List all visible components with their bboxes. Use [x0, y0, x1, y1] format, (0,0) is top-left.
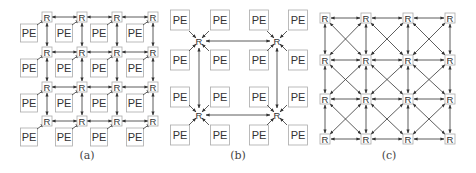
router-node: R — [445, 94, 455, 105]
pe-node: PE — [56, 24, 73, 42]
router-label: R — [322, 13, 329, 24]
pe-node: PE — [91, 94, 108, 112]
link-arrow — [202, 44, 209, 51]
caption-a: (a) — [79, 149, 94, 162]
router-label: R — [196, 36, 203, 47]
router-label: R — [322, 55, 329, 66]
router-node: R — [77, 12, 87, 23]
router-label: R — [44, 12, 51, 23]
pe-node: PE — [56, 94, 73, 112]
pe-node: PE — [91, 59, 108, 77]
router-node: R — [361, 134, 371, 145]
pe-node: PE — [21, 128, 38, 146]
router-node: R — [148, 82, 158, 93]
pe-node: PE — [56, 128, 73, 146]
link-arrow — [280, 31, 287, 38]
router-node: R — [112, 82, 122, 93]
pe-node: PE — [127, 59, 144, 77]
router-node: R — [148, 116, 158, 127]
pe-node: PE — [250, 87, 269, 107]
pe-label: PE — [173, 129, 188, 141]
router-label: R — [114, 82, 121, 93]
router-label: R — [405, 94, 412, 105]
router-label: R — [447, 13, 454, 24]
pe-label: PE — [173, 14, 188, 26]
router-node: R — [274, 110, 281, 121]
router-node: R — [42, 47, 52, 58]
router-node: R — [112, 116, 122, 127]
pe-label: PE — [291, 91, 306, 103]
router-label: R — [363, 55, 370, 66]
router-label: R — [447, 94, 454, 105]
router-label: R — [79, 82, 86, 93]
pe-label: PE — [291, 129, 306, 141]
router-node: R — [403, 134, 413, 145]
router-label: R — [363, 134, 370, 145]
router-node: R — [196, 110, 203, 121]
router-node: R — [445, 13, 455, 24]
pe-node: PE — [211, 10, 230, 30]
pe-node: PE — [21, 94, 38, 112]
router-node: R — [445, 134, 455, 145]
router-node: R — [403, 13, 413, 24]
pe-label: PE — [92, 62, 107, 74]
pe-label: PE — [128, 27, 143, 39]
link-arrow — [202, 118, 209, 125]
pe-label: PE — [252, 54, 267, 66]
pe-node: PE — [127, 128, 144, 146]
router-label: R — [447, 134, 454, 145]
router-node: R — [77, 116, 87, 127]
router-node: R — [320, 55, 330, 66]
pe-label: PE — [291, 14, 306, 26]
router-node: R — [403, 94, 413, 105]
router-node: R — [445, 55, 455, 66]
router-label: R — [196, 110, 203, 121]
pe-node: PE — [289, 125, 308, 145]
router-node: R — [274, 36, 281, 47]
router-node: R — [148, 12, 158, 23]
pe-node: PE — [250, 50, 269, 70]
router-label: R — [274, 110, 281, 121]
pe-node: PE — [211, 87, 230, 107]
router-label: R — [405, 134, 412, 145]
pe-node: PE — [21, 59, 38, 77]
pe-label: PE — [252, 14, 267, 26]
pe-node: PE — [289, 10, 308, 30]
router-label: R — [79, 47, 86, 58]
router-label: R — [79, 12, 86, 23]
router-node: R — [112, 12, 122, 23]
router-label: R — [150, 82, 157, 93]
pe-label: PE — [213, 54, 228, 66]
pe-node: PE — [250, 125, 269, 145]
pe-node: PE — [91, 24, 108, 42]
pe-label: PE — [128, 97, 143, 109]
link-arrow — [202, 31, 209, 38]
pe-node: PE — [171, 10, 190, 30]
pe-label: PE — [57, 131, 72, 143]
pe-label: PE — [22, 131, 37, 143]
pe-label: PE — [252, 91, 267, 103]
router-label: R — [114, 12, 121, 23]
panel-c-diagonal-mesh: RRRRRRRRRRRRRRRR — [320, 13, 455, 145]
pe-label: PE — [92, 131, 107, 143]
router-label: R — [150, 47, 157, 58]
pe-label: PE — [128, 62, 143, 74]
pe-label: PE — [92, 97, 107, 109]
pe-label: PE — [92, 27, 107, 39]
pe-label: PE — [213, 129, 228, 141]
pe-label: PE — [22, 97, 37, 109]
router-node: R — [361, 13, 371, 24]
router-label: R — [322, 134, 329, 145]
pe-node: PE — [211, 125, 230, 145]
pe-node: PE — [21, 24, 38, 42]
noc-topology-diagram: PERPERPERPERPERPERPERPERPERPERPERPERPERP… — [0, 0, 476, 173]
router-node: R — [42, 82, 52, 93]
router-label: R — [447, 55, 454, 66]
router-label: R — [114, 116, 121, 127]
router-label: R — [322, 94, 329, 105]
caption-c: (c) — [382, 149, 397, 162]
router-node: R — [77, 82, 87, 93]
router-node: R — [42, 116, 52, 127]
router-node: R — [320, 94, 330, 105]
pe-label: PE — [22, 27, 37, 39]
